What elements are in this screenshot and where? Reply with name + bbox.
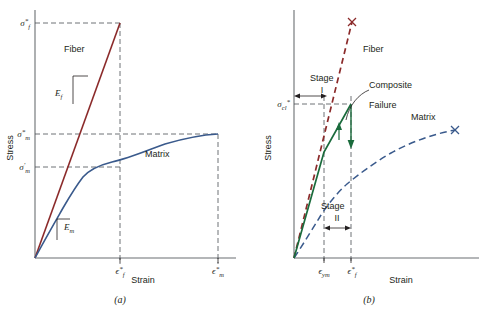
ytick-label-sigma-f-star: σ*f xyxy=(20,17,31,30)
x-axis-title-a: Strain xyxy=(131,275,155,285)
composite-direction-arrow xyxy=(336,122,342,140)
curve-composite-b xyxy=(294,104,351,258)
stage-2-numeral: II xyxy=(334,213,339,223)
curve-label-matrix-a: Matrix xyxy=(145,149,170,159)
ytick-label-sigma-m-star: σ*m xyxy=(17,128,30,141)
curve-label-composite: Composite xyxy=(369,80,412,90)
label-fiber-modulus: Ef xyxy=(54,88,64,100)
caption-a: (a) xyxy=(114,294,126,306)
stage-2-label: Stage xyxy=(321,201,345,211)
xtick-label-eps-f-star-b: ϵ*f xyxy=(348,265,358,278)
xtick-label-eps-m-star-a: ϵ*m xyxy=(212,265,224,278)
curve-label-matrix-b: Matrix xyxy=(411,112,436,122)
slope-triangle-fiber xyxy=(73,76,88,104)
stage-1-numeral: I xyxy=(321,85,324,95)
curve-label-fiber-a: Fiber xyxy=(64,44,85,54)
panel-b-plot: Stress Strain σcl* ϵym ϵ*f Fiber Matrix … xyxy=(241,0,482,311)
panel-a: Stress Strain σ*f σ*m σ′m ϵ*f ϵ*m Fiber … xyxy=(0,0,241,311)
y-axis-title-a: Stress xyxy=(5,135,15,161)
composite-leader-line xyxy=(346,90,369,120)
panel-b: Stress Strain σcl* ϵym ϵ*f Fiber Matrix … xyxy=(241,0,482,311)
xtick-label-eps-ym: ϵym xyxy=(318,266,330,278)
stage-1-label: Stage xyxy=(310,73,334,83)
curve-fiber-a xyxy=(35,23,120,258)
stage-2-measure xyxy=(324,225,351,230)
curve-matrix-b xyxy=(294,130,455,258)
curve-label-failure: Failure xyxy=(369,100,397,110)
curve-label-fiber-b: Fiber xyxy=(363,44,384,54)
x-axis-title-b: Strain xyxy=(389,275,413,285)
ytick-label-sigma-cl-star: σcl* xyxy=(277,98,290,111)
label-matrix-modulus: Em xyxy=(63,222,75,234)
xtick-label-eps-f-star-a: ϵ*f xyxy=(116,265,126,278)
figure-stress-strain-composite: Stress Strain σ*f σ*m σ′m ϵ*f ϵ*m Fiber … xyxy=(0,0,482,311)
panel-a-plot: Stress Strain σ*f σ*m σ′m ϵ*f ϵ*m Fiber … xyxy=(0,0,241,311)
y-axis-title-b: Stress xyxy=(263,135,273,161)
caption-b: (b) xyxy=(363,294,375,306)
curve-fiber-b xyxy=(294,22,352,258)
curve-matrix-a xyxy=(35,134,218,258)
ytick-label-sigma-m-prime: σ′m xyxy=(19,161,30,174)
